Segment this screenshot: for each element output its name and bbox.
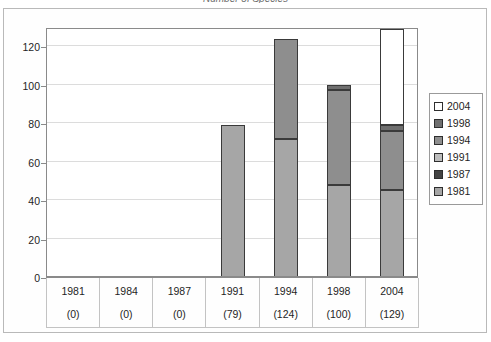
bar-stack[interactable] — [327, 27, 351, 277]
y-tick-mark — [41, 86, 46, 87]
chart-title: Number of Species — [0, 0, 491, 3]
legend-swatch-icon — [434, 102, 443, 111]
x-axis-category-label: 1998 — [313, 285, 365, 297]
bar-segment[interactable] — [327, 185, 351, 277]
chart-legend: 200419981994199119871981 — [429, 93, 483, 205]
legend-label: 1981 — [447, 186, 470, 197]
bar-segment[interactable] — [274, 39, 298, 139]
x-axis-total-label: (0) — [153, 308, 205, 320]
x-axis-cell: 1984(0) — [100, 278, 153, 328]
plot-area — [46, 28, 418, 278]
bar-stack[interactable] — [221, 27, 245, 277]
y-tick-mark — [41, 240, 46, 241]
legend-item[interactable]: 1991 — [434, 149, 479, 166]
x-axis-total-label: (79) — [206, 308, 258, 320]
legend-label: 2004 — [447, 101, 470, 112]
legend-swatch-icon — [434, 153, 443, 162]
x-axis-cell: 2004(129) — [366, 278, 419, 328]
x-axis-category-label: 1984 — [100, 285, 152, 297]
y-tick-label: 100 — [0, 81, 40, 91]
bar-segment[interactable] — [327, 85, 351, 91]
x-axis-cell: 1987(0) — [153, 278, 206, 328]
x-axis-cell: 1981(0) — [47, 278, 100, 328]
legend-label: 1994 — [447, 135, 470, 146]
chart-figure: Number of Species 020406080100120 1981(0… — [0, 0, 491, 342]
x-axis-cell: 1998(100) — [313, 278, 366, 328]
y-tick-label: 80 — [0, 119, 40, 129]
legend-item[interactable]: 1987 — [434, 166, 479, 183]
x-axis-category-label: 1981 — [47, 285, 99, 297]
legend-swatch-icon — [434, 136, 443, 145]
legend-swatch-icon — [434, 170, 443, 179]
y-tick-label: 60 — [0, 158, 40, 168]
x-axis-cell: 1991(79) — [206, 278, 259, 328]
legend-item[interactable]: 1994 — [434, 132, 479, 149]
legend-item[interactable]: 2004 — [434, 98, 479, 115]
bar-segment[interactable] — [274, 139, 298, 277]
x-axis-total-label: (0) — [47, 308, 99, 320]
x-axis-total-label: (124) — [260, 308, 312, 320]
y-tick-mark — [41, 163, 46, 164]
bar-segment[interactable] — [380, 29, 404, 125]
bar-stack[interactable] — [380, 27, 404, 277]
legend-item[interactable]: 1981 — [434, 183, 479, 200]
bar-segment[interactable] — [380, 131, 404, 190]
x-axis-cell: 1994(124) — [260, 278, 313, 328]
y-tick-mark — [41, 124, 46, 125]
legend-swatch-icon — [434, 187, 443, 196]
x-axis-total-label: (100) — [313, 308, 365, 320]
x-axis-category-label: 1987 — [153, 285, 205, 297]
bar-segment[interactable] — [221, 125, 245, 277]
y-tick-label: 120 — [0, 42, 40, 52]
legend-label: 1991 — [447, 152, 470, 163]
y-tick-mark — [41, 47, 46, 48]
bar-segment[interactable] — [380, 125, 404, 131]
x-axis-category-label: 2004 — [366, 285, 418, 297]
bar-segment[interactable] — [327, 90, 351, 184]
bar-segment[interactable] — [380, 190, 404, 278]
y-tick-label: 20 — [0, 235, 40, 245]
y-tick-mark — [41, 201, 46, 202]
x-axis-category-label: 1991 — [206, 285, 258, 297]
x-axis-total-label: (129) — [366, 308, 418, 320]
x-axis-table: 1981(0)1984(0)1987(0)1991(79)1994(124)19… — [46, 278, 418, 328]
legend-item[interactable]: 1998 — [434, 115, 479, 132]
legend-label: 1987 — [447, 169, 470, 180]
x-axis-total-label: (0) — [100, 308, 152, 320]
zero-axis-line — [47, 276, 417, 277]
bar-stack[interactable] — [274, 27, 298, 277]
legend-swatch-icon — [434, 119, 443, 128]
y-tick-label: 0 — [0, 273, 40, 283]
y-tick-label: 40 — [0, 196, 40, 206]
legend-label: 1998 — [447, 118, 470, 129]
x-axis-category-label: 1994 — [260, 285, 312, 297]
